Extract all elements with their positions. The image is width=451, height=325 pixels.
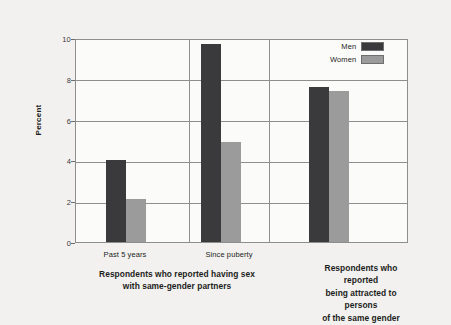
group-divider-1 [189,40,190,242]
gridline-y-8 [76,80,407,81]
bar-men-attracted [309,87,329,242]
y-tick-label-10: 10 [62,35,71,44]
bar-women-past-5-years [126,199,146,242]
group-tick-label-since-puberty: Since puberty [205,250,252,259]
caption-right: Respondents who reported being attracted… [316,262,406,324]
bar-women-since-puberty [221,142,241,242]
group-divider-2 [269,40,270,242]
legend-label-women: Women [330,56,356,64]
legend-item-women: Women [330,54,384,65]
group-tick-label-past-5-years: Past 5 years [104,250,147,259]
legend-item-men: Men [330,41,384,52]
caption-right-line-1: Respondents who reported [316,262,406,287]
y-tick-mark-0 [71,243,75,244]
bar-men-since-puberty [201,44,221,242]
caption-left-line-1: Respondents who reported having sex [99,268,255,280]
caption-left: Respondents who reported having sex with… [99,268,255,293]
gridline-y-6 [76,121,407,122]
bar-men-past-5-years [106,160,126,242]
legend-label-men: Men [341,43,356,51]
legend-swatch-women [361,55,384,64]
caption-right-line-2: being attracted to persons [316,287,406,312]
legend-swatch-men [361,42,384,51]
chart-figure: Percent 0 2 4 6 8 10 [0,0,451,325]
plot-area [75,39,408,243]
legend: Men Women [330,41,384,65]
caption-left-line-2: with same-gender partners [99,280,255,292]
y-axis: 0 2 4 6 8 10 [0,0,75,325]
caption-right-line-3: of the same gender [316,312,406,324]
bar-women-attracted [329,91,349,242]
